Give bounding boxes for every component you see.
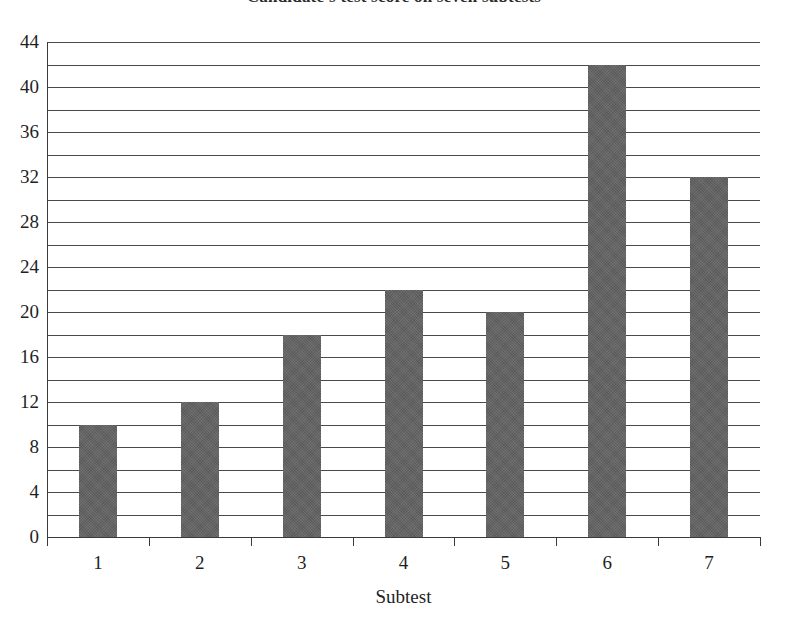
x-axis-line <box>47 537 760 538</box>
y-axis-tick-label: 44 <box>0 32 39 51</box>
y-axis-tick-label: 28 <box>0 212 39 231</box>
y-axis-tick-label: 8 <box>0 437 39 456</box>
y-axis-line <box>47 42 48 537</box>
x-axis-tick <box>149 537 150 546</box>
x-axis-tick <box>556 537 557 546</box>
y-axis-tick-label: 16 <box>0 347 39 366</box>
y-axis-tick-labels: 048121620242832364044 <box>0 0 39 624</box>
x-axis-tick-label: 3 <box>272 552 332 574</box>
y-axis-tick-label: 32 <box>0 167 39 186</box>
x-axis-tick <box>658 537 659 546</box>
x-axis-tick <box>760 537 761 546</box>
x-axis-tick-label: 2 <box>170 552 230 574</box>
bar <box>283 335 321 538</box>
bar <box>690 177 728 537</box>
x-axis-tick <box>47 537 48 546</box>
bar <box>181 402 219 537</box>
bars-layer <box>47 42 760 537</box>
y-axis-tick-label: 20 <box>0 302 39 321</box>
x-axis-tick <box>454 537 455 546</box>
bar <box>385 290 423 538</box>
y-axis-tick-label: 24 <box>0 257 39 276</box>
bar <box>79 425 117 538</box>
x-axis-tick <box>251 537 252 546</box>
x-axis-tick-label: 4 <box>374 552 434 574</box>
y-axis-tick-label: 40 <box>0 77 39 96</box>
x-axis-tick-label: 1 <box>68 552 128 574</box>
bar <box>588 65 626 538</box>
bar-chart-figure: Candidate's test score on seven subtests… <box>0 0 788 624</box>
x-axis-tick <box>353 537 354 546</box>
x-axis-tick-label: 5 <box>475 552 535 574</box>
y-axis-tick-label: 36 <box>0 122 39 141</box>
y-axis-tick-label: 4 <box>0 482 39 501</box>
y-axis-tick-label: 0 <box>0 527 39 546</box>
x-axis-title: Subtest <box>47 586 760 608</box>
x-axis-tick-label: 6 <box>577 552 637 574</box>
chart-title: Candidate's test score on seven subtests <box>0 0 788 7</box>
bar <box>486 312 524 537</box>
x-axis-tick-label: 7 <box>679 552 739 574</box>
y-axis-tick-label: 12 <box>0 392 39 411</box>
